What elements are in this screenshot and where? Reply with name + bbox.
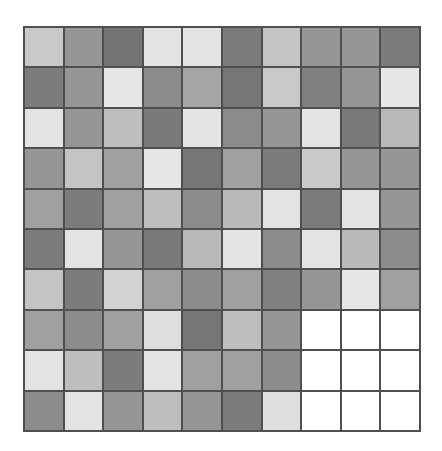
heatmap-cell xyxy=(183,149,221,187)
heatmap-cell xyxy=(144,28,182,66)
heatmap-cell xyxy=(65,109,103,147)
heatmap-cell xyxy=(381,351,419,389)
heatmap-frame xyxy=(23,26,421,432)
heatmap-cell xyxy=(104,351,142,389)
heatmap-cell xyxy=(381,68,419,106)
heatmap-cell xyxy=(302,392,340,430)
heatmap-cell xyxy=(342,351,380,389)
heatmap-cell xyxy=(144,68,182,106)
heatmap-cell xyxy=(223,311,261,349)
heatmap-cell xyxy=(104,68,142,106)
heatmap-cell xyxy=(342,190,380,228)
heatmap-cell xyxy=(342,230,380,268)
heatmap-cell xyxy=(65,28,103,66)
heatmap-cell xyxy=(263,351,301,389)
heatmap-cell xyxy=(104,109,142,147)
heatmap-cell xyxy=(302,28,340,66)
heatmap-cell xyxy=(381,392,419,430)
heatmap-cell xyxy=(223,149,261,187)
heatmap-grid xyxy=(25,28,419,430)
heatmap-cell xyxy=(144,109,182,147)
heatmap-cell xyxy=(25,109,63,147)
heatmap-cell xyxy=(25,311,63,349)
heatmap-cell xyxy=(65,351,103,389)
heatmap-cell xyxy=(104,311,142,349)
heatmap-cell xyxy=(183,230,221,268)
heatmap-cell xyxy=(25,68,63,106)
heatmap-cell xyxy=(25,149,63,187)
heatmap-cell xyxy=(302,190,340,228)
heatmap-cell xyxy=(263,270,301,308)
heatmap-cell xyxy=(342,109,380,147)
heatmap-cell xyxy=(302,230,340,268)
heatmap-cell xyxy=(223,28,261,66)
heatmap-cell xyxy=(342,149,380,187)
heatmap-cell xyxy=(144,392,182,430)
heatmap-cell xyxy=(302,149,340,187)
heatmap-cell xyxy=(25,230,63,268)
heatmap-cell xyxy=(65,190,103,228)
heatmap-cell xyxy=(65,392,103,430)
heatmap-cell xyxy=(263,28,301,66)
figure-canvas xyxy=(0,0,442,451)
heatmap-cell xyxy=(183,109,221,147)
heatmap-cell xyxy=(263,109,301,147)
heatmap-cell xyxy=(183,190,221,228)
heatmap-cell xyxy=(65,311,103,349)
heatmap-cell xyxy=(381,311,419,349)
heatmap-cell xyxy=(65,68,103,106)
heatmap-cell xyxy=(144,190,182,228)
heatmap-cell xyxy=(263,149,301,187)
heatmap-cell xyxy=(144,270,182,308)
heatmap-cell xyxy=(65,149,103,187)
heatmap-cell xyxy=(144,149,182,187)
heatmap-cell xyxy=(144,311,182,349)
heatmap-cell xyxy=(342,28,380,66)
heatmap-cell xyxy=(183,392,221,430)
heatmap-cell xyxy=(223,190,261,228)
heatmap-cell xyxy=(104,149,142,187)
heatmap-cell xyxy=(263,311,301,349)
heatmap-cell xyxy=(302,68,340,106)
heatmap-cell xyxy=(263,392,301,430)
heatmap-cell xyxy=(263,190,301,228)
heatmap-cell xyxy=(302,311,340,349)
heatmap-cell xyxy=(144,351,182,389)
heatmap-cell xyxy=(263,230,301,268)
heatmap-cell xyxy=(223,351,261,389)
heatmap-cell xyxy=(25,270,63,308)
heatmap-cell xyxy=(25,351,63,389)
heatmap-cell xyxy=(104,190,142,228)
heatmap-cell xyxy=(223,109,261,147)
heatmap-cell xyxy=(381,109,419,147)
heatmap-cell xyxy=(342,311,380,349)
heatmap-cell xyxy=(381,149,419,187)
heatmap-cell xyxy=(183,311,221,349)
heatmap-cell xyxy=(183,270,221,308)
heatmap-cell xyxy=(25,28,63,66)
heatmap-cell xyxy=(342,68,380,106)
heatmap-cell xyxy=(302,270,340,308)
heatmap-cell xyxy=(104,392,142,430)
heatmap-cell xyxy=(302,109,340,147)
heatmap-cell xyxy=(104,270,142,308)
heatmap-cell xyxy=(223,68,261,106)
heatmap-cell xyxy=(65,270,103,308)
heatmap-cell xyxy=(381,270,419,308)
heatmap-cell xyxy=(342,392,380,430)
heatmap-cell xyxy=(263,68,301,106)
heatmap-cell xyxy=(223,230,261,268)
heatmap-cell xyxy=(104,230,142,268)
heatmap-cell xyxy=(223,270,261,308)
heatmap-cell xyxy=(342,270,380,308)
heatmap-cell xyxy=(381,230,419,268)
heatmap-cell xyxy=(302,351,340,389)
heatmap-cell xyxy=(25,190,63,228)
heatmap-cell xyxy=(183,351,221,389)
heatmap-cell xyxy=(25,392,63,430)
heatmap-cell xyxy=(144,230,182,268)
heatmap-cell xyxy=(104,28,142,66)
heatmap-cell xyxy=(381,190,419,228)
heatmap-cell xyxy=(183,68,221,106)
heatmap-cell xyxy=(65,230,103,268)
